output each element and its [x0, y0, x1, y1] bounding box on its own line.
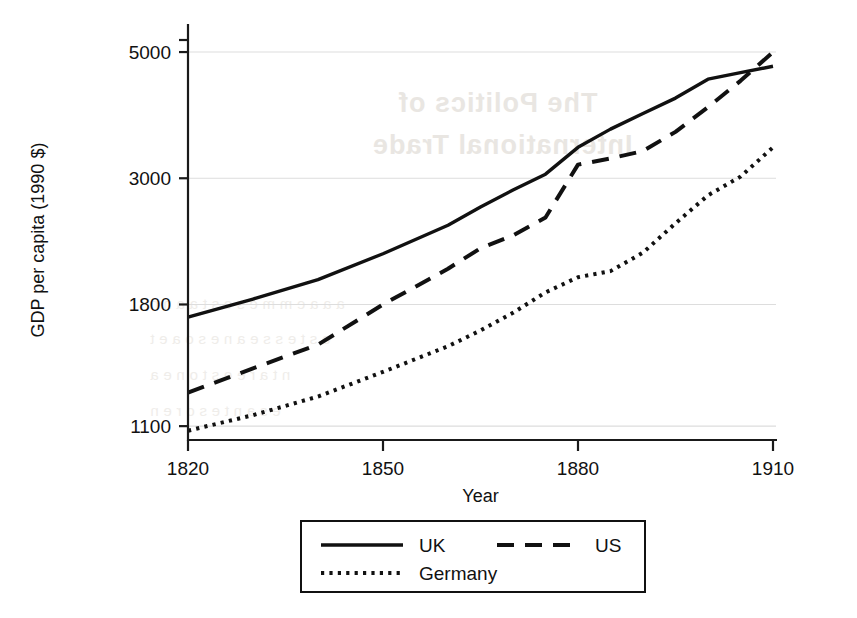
series-line-germany — [188, 147, 773, 430]
legend-label-germany[interactable]: Germany — [419, 563, 498, 584]
y-axis-title: GDP per capita (1990 $) — [28, 143, 48, 338]
series-line-us — [188, 52, 773, 393]
series-lines — [188, 52, 773, 431]
legend-label-uk[interactable]: UK — [419, 535, 446, 556]
ytick-label-1100: 1100 — [130, 416, 171, 437]
chart-canvas: 11001800300050001820185018801910YearGDP … — [0, 0, 857, 618]
ytick-label-1800: 1800 — [129, 294, 171, 315]
chart-legend[interactable]: UKUSGermany — [301, 521, 645, 592]
xtick-label-1880: 1880 — [557, 458, 599, 479]
ytick-label-3000: 3000 — [129, 168, 171, 189]
gdp-per-capita-line-chart: The Politics of International Trade a a … — [0, 0, 857, 618]
series-line-uk — [188, 66, 773, 317]
legend-label-us[interactable]: US — [595, 535, 621, 556]
x-axis-title: Year — [462, 486, 498, 506]
xtick-label-1820: 1820 — [167, 458, 209, 479]
axes — [179, 24, 777, 451]
ytick-label-5000: 5000 — [129, 42, 171, 63]
gridlines — [188, 52, 776, 426]
xtick-label-1850: 1850 — [362, 458, 404, 479]
xtick-label-1910: 1910 — [752, 458, 794, 479]
axis-labels: 11001800300050001820185018801910YearGDP … — [28, 42, 794, 506]
axis-spines — [188, 24, 777, 440]
